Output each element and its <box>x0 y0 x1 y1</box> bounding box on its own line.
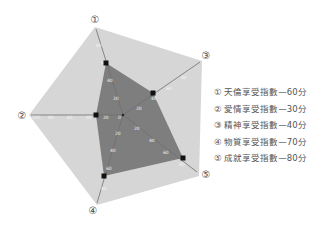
legend-item-5: ⑤ 成就享受指數—80分 <box>214 150 307 167</box>
marker-2 <box>94 113 99 118</box>
svg-text:40: 40 <box>107 78 113 83</box>
svg-text:80: 80 <box>96 43 102 48</box>
svg-text:60: 60 <box>166 86 172 91</box>
center-point <box>122 114 124 116</box>
svg-text:40: 40 <box>86 115 92 120</box>
svg-text:60: 60 <box>67 115 73 120</box>
axis-label-4: ④ <box>89 205 98 216</box>
axis-label-1: ① <box>91 14 100 25</box>
svg-text:20: 20 <box>134 126 140 131</box>
svg-text:40: 40 <box>151 96 157 101</box>
svg-text:60: 60 <box>106 166 112 171</box>
svg-text:20: 20 <box>115 131 121 136</box>
marker-1 <box>104 61 109 66</box>
marker-4 <box>102 174 107 179</box>
svg-text:20: 20 <box>113 96 119 101</box>
svg-text:0: 0 <box>118 115 121 120</box>
legend: ① 天倫享受指數—60分 ② 愛情享受指數—30分 ③ 精神享受指數—40分 ④… <box>214 84 307 167</box>
svg-text:40: 40 <box>110 148 116 153</box>
svg-text:60: 60 <box>163 150 169 155</box>
svg-text:80: 80 <box>101 186 107 191</box>
legend-item-1: ① 天倫享受指數—60分 <box>214 84 307 101</box>
svg-text:80: 80 <box>181 75 187 80</box>
marker-5 <box>181 156 186 161</box>
axis-label-2: ② <box>18 110 27 121</box>
svg-text:20: 20 <box>103 115 109 120</box>
axis-label-3: ③ <box>202 50 211 61</box>
svg-text:40: 40 <box>149 138 155 143</box>
svg-text:80: 80 <box>48 115 54 120</box>
svg-text:100: 100 <box>32 115 41 120</box>
legend-item-3: ③ 精神享受指數—40分 <box>214 117 307 134</box>
axis-label-5: ⑤ <box>202 169 211 180</box>
svg-text:80: 80 <box>179 162 185 167</box>
legend-item-2: ② 愛情享受指數—30分 <box>214 101 307 118</box>
legend-item-4: ④ 物質享受指數—70分 <box>214 134 307 151</box>
marker-3 <box>151 91 156 96</box>
svg-text:20: 20 <box>136 106 142 111</box>
